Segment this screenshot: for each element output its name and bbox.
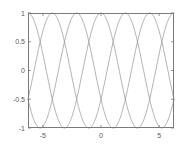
xtick-label-0: -5 xyxy=(33,132,53,139)
ytick-label-3: 0.5 xyxy=(15,38,25,45)
plot-area-background xyxy=(28,13,174,128)
xtick-label-2: 5 xyxy=(149,132,169,139)
ytick-label-1: -0.5 xyxy=(13,96,25,103)
xtick-label-1: 0 xyxy=(91,132,111,139)
figure-container: -1-0.500.51-505 xyxy=(0,0,183,157)
ytick-label-4: 1 xyxy=(21,10,25,17)
ytick-label-2: 0 xyxy=(21,67,25,74)
ytick-label-0: -1 xyxy=(19,125,25,132)
